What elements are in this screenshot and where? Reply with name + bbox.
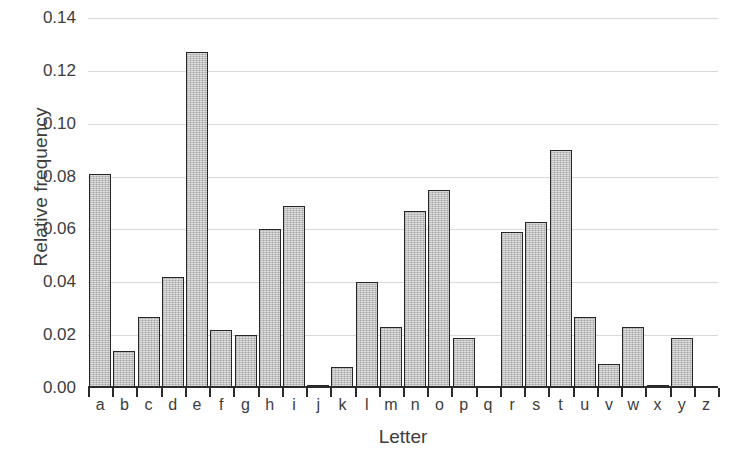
bar-y[interactable] [671, 338, 693, 388]
bar-l[interactable] [356, 282, 378, 388]
bar-cell [112, 18, 136, 388]
bar-cell [185, 18, 209, 388]
bar-c[interactable] [138, 317, 160, 388]
x-axis-tick [718, 388, 720, 397]
bar-p[interactable] [453, 338, 475, 388]
bar-u[interactable] [574, 317, 596, 388]
bar-s[interactable] [525, 222, 547, 389]
y-axis-tick-label: 0.12 [43, 61, 76, 81]
bar-v[interactable] [598, 364, 620, 388]
y-axis-tick-label: 0.00 [43, 378, 76, 398]
bar-cell [645, 18, 669, 388]
bar-i[interactable] [283, 206, 305, 388]
x-axis-tick-label: p [452, 396, 476, 414]
y-axis-tick-label: 0.08 [43, 167, 76, 187]
bar-h[interactable] [259, 229, 281, 388]
y-axis-tick-label: 0.02 [43, 325, 76, 345]
bar-cell [403, 18, 427, 388]
bar-r[interactable] [501, 232, 523, 388]
x-axis-tick-label: f [209, 396, 233, 414]
x-axis-tick-label: a [88, 396, 112, 414]
bar-cell [136, 18, 160, 388]
bar-t[interactable] [550, 150, 572, 388]
x-axis-tick-label: h [258, 396, 282, 414]
bar-n[interactable] [404, 211, 426, 388]
bar-cell [670, 18, 694, 388]
bar-o[interactable] [428, 190, 450, 388]
bar-cell [209, 18, 233, 388]
x-axis-tick-label: x [645, 396, 669, 414]
y-axis-tick-label: 0.04 [43, 272, 76, 292]
y-axis-tick-label: 0.14 [43, 8, 76, 28]
bar-cell [573, 18, 597, 388]
bar-cell [161, 18, 185, 388]
x-axis-tick-label: m [379, 396, 403, 414]
x-axis-tick-label: o [427, 396, 451, 414]
bar-a[interactable] [89, 174, 111, 388]
x-axis-tick-label: q [476, 396, 500, 414]
x-axis-tick-label: b [112, 396, 136, 414]
bar-cell [330, 18, 354, 388]
x-axis-tick-label: t [548, 396, 572, 414]
x-axis-tick-label: d [161, 396, 185, 414]
x-axis-tick-label: u [573, 396, 597, 414]
bars-group [88, 18, 718, 388]
bar-cell [476, 18, 500, 388]
bar-b[interactable] [113, 351, 135, 388]
y-axis-tick-label: 0.10 [43, 114, 76, 134]
bar-cell [88, 18, 112, 388]
bar-cell [597, 18, 621, 388]
bar-m[interactable] [380, 327, 402, 388]
bar-cell [452, 18, 476, 388]
x-axis-title: Letter [88, 426, 718, 448]
relative-frequency-bar-chart: Relative frequency 0.000.020.040.060.080… [0, 0, 745, 457]
x-axis-tick-label: z [694, 396, 718, 414]
bar-f[interactable] [210, 330, 232, 388]
bar-cell [379, 18, 403, 388]
bar-d[interactable] [162, 277, 184, 388]
bar-cell [355, 18, 379, 388]
x-axis-tick-label: j [306, 396, 330, 414]
bar-cell [524, 18, 548, 388]
bar-cell [306, 18, 330, 388]
x-axis-tick-label: l [355, 396, 379, 414]
x-axis-tick-label: e [185, 396, 209, 414]
bar-cell [427, 18, 451, 388]
bar-g[interactable] [235, 335, 257, 388]
x-axis-tick-label: w [621, 396, 645, 414]
bar-cell [233, 18, 257, 388]
bar-w[interactable] [622, 327, 644, 388]
x-axis-tick-label: c [136, 396, 160, 414]
x-axis-tick-label: v [597, 396, 621, 414]
bar-cell [694, 18, 718, 388]
bar-e[interactable] [186, 52, 208, 388]
bar-cell [548, 18, 572, 388]
x-axis-tick-label: n [403, 396, 427, 414]
bar-cell [621, 18, 645, 388]
x-axis-tick-label: i [282, 396, 306, 414]
x-axis-tick-labels: abcdefghijklmnopqrstuvwxyz [88, 396, 718, 414]
bar-cell [258, 18, 282, 388]
bar-cell [500, 18, 524, 388]
y-axis-tick-label: 0.06 [43, 219, 76, 239]
x-axis-tick-label: y [670, 396, 694, 414]
x-axis-tick-label: k [330, 396, 354, 414]
bar-cell [282, 18, 306, 388]
x-axis-tick-label: s [524, 396, 548, 414]
x-axis-tick-label: g [233, 396, 257, 414]
x-axis-tick-label: r [500, 396, 524, 414]
plot-area: 0.000.020.040.060.080.100.120.14 [88, 18, 718, 388]
bar-k[interactable] [331, 367, 353, 388]
